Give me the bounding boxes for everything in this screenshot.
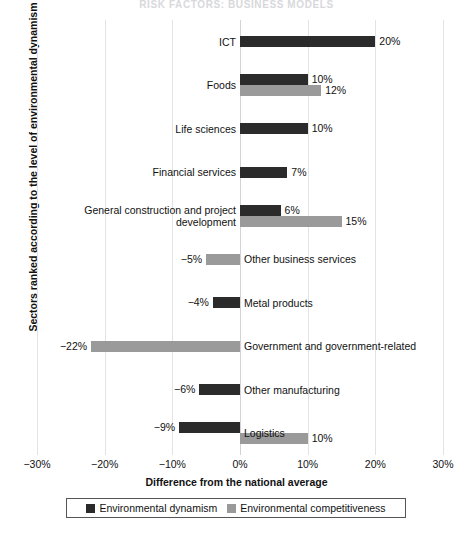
plot-area: 20%ICT10%12%Foods10%Life sciences7%Finan… bbox=[37, 20, 443, 455]
category-label: Metal products bbox=[244, 297, 313, 309]
x-axis-tick-label: −20% bbox=[91, 458, 118, 470]
legend-item: Environmental competitiveness bbox=[227, 502, 385, 514]
bar bbox=[240, 74, 308, 85]
category-label: Government and government-related bbox=[244, 340, 416, 352]
bar bbox=[199, 384, 240, 395]
x-axis-tick-label: −10% bbox=[159, 458, 186, 470]
category-label: Other manufacturing bbox=[244, 384, 340, 396]
category-label: Life sciences bbox=[0, 123, 236, 135]
legend-item: Environmental dynamism bbox=[86, 502, 217, 514]
legend-label: Environmental competitiveness bbox=[240, 502, 385, 514]
legend-label: Environmental dynamism bbox=[99, 502, 217, 514]
bar-value-label: 20% bbox=[379, 35, 400, 47]
bar-row: 20%ICT bbox=[37, 36, 443, 47]
x-axis-title: Difference from the national average bbox=[0, 476, 473, 488]
bar-row: −5%Other business services bbox=[37, 254, 443, 265]
bar-value-label: −9% bbox=[154, 421, 175, 433]
category-label: ICT bbox=[0, 36, 236, 48]
bar-value-label: −5% bbox=[181, 253, 202, 265]
bar bbox=[240, 123, 308, 134]
x-axis-tick-label: 10% bbox=[297, 458, 318, 470]
x-axis-tick-label: 0% bbox=[232, 458, 247, 470]
bar bbox=[240, 167, 287, 178]
x-axis-tick-label: −30% bbox=[23, 458, 50, 470]
category-label: Foods bbox=[0, 79, 236, 91]
bar-value-label: 6% bbox=[285, 204, 300, 216]
bar-row: 10%12%Foods bbox=[37, 74, 443, 96]
bar-value-label: 7% bbox=[291, 166, 306, 178]
bar-value-label: 10% bbox=[312, 122, 333, 134]
category-label: Financial services bbox=[0, 166, 236, 178]
bar-chart: Sectors ranked according to the level of… bbox=[0, 14, 473, 533]
bar-value-label: 12% bbox=[325, 84, 346, 96]
category-label: Other business services bbox=[244, 253, 356, 265]
bar-row: −9%10%Logistics bbox=[37, 422, 443, 444]
bar-value-label: −4% bbox=[188, 296, 209, 308]
bar bbox=[240, 36, 375, 47]
x-axis-ticks: −30%−20%−10%0%10%20%30% bbox=[37, 455, 443, 471]
bar-row: −22%Government and government-related bbox=[37, 341, 443, 352]
bar-value-label: −6% bbox=[174, 383, 195, 395]
bar bbox=[240, 216, 342, 227]
legend-swatch-icon bbox=[227, 504, 236, 513]
running-header: Risk Factors: Business Models bbox=[0, 0, 473, 14]
bar-value-label: −22% bbox=[60, 340, 87, 352]
category-label: Logistics bbox=[244, 427, 285, 439]
gridline bbox=[443, 20, 444, 455]
legend-swatch-icon bbox=[86, 504, 95, 513]
bar bbox=[206, 254, 240, 265]
bar bbox=[91, 341, 240, 352]
bar-row: 7%Financial services bbox=[37, 167, 443, 178]
bar bbox=[240, 205, 281, 216]
bar-row: 6%15%General construction and project de… bbox=[37, 205, 443, 227]
bar-rows: 20%ICT10%12%Foods10%Life sciences7%Finan… bbox=[37, 20, 443, 455]
chart-legend: Environmental dynamismEnvironmental comp… bbox=[66, 498, 406, 518]
bar bbox=[240, 85, 321, 96]
bar-row: −4%Metal products bbox=[37, 297, 443, 308]
bar-value-label: 15% bbox=[346, 215, 367, 227]
bar-row: −6%Other manufacturing bbox=[37, 384, 443, 395]
x-axis-tick-label: 30% bbox=[432, 458, 453, 470]
bar bbox=[179, 422, 240, 433]
x-axis-tick-label: 20% bbox=[365, 458, 386, 470]
category-label: General construction and project develop… bbox=[0, 204, 236, 228]
bar bbox=[213, 297, 240, 308]
bar-row: 10%Life sciences bbox=[37, 123, 443, 134]
bar-value-label: 10% bbox=[312, 432, 333, 444]
